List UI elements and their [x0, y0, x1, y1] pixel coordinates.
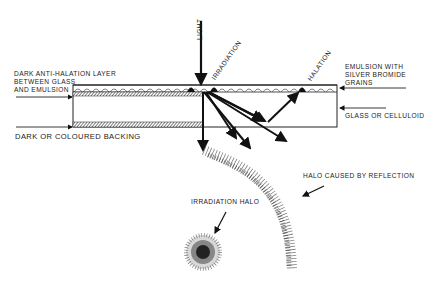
glass-label: GLASS OR CELLULOID — [345, 112, 424, 120]
anti-halation-label-1: DARK ANTI-HALATION LAYER — [14, 70, 116, 78]
scatter-rays — [203, 92, 298, 150]
backing-layer — [73, 122, 203, 127]
halo-reflection-label: HALO CAUSED BY REFLECTION — [303, 172, 414, 180]
emulsion-label-1: EMULSION WITH — [345, 63, 403, 71]
emulsion-layer — [73, 85, 337, 92]
anti-halation-label-2: BETWEEN GLASS — [14, 78, 76, 86]
backing-label: DARK OR COLOURED BACKING — [15, 133, 141, 141]
anti-halation-layer — [73, 92, 203, 96]
halo-pointers — [215, 186, 324, 233]
emulsion-label-2: SILVER BROMIDE — [345, 71, 406, 79]
emulsion-label-3: GRAINS — [345, 79, 373, 87]
light-label: LIGHT — [196, 19, 204, 40]
anti-halation-label-3: AND EMULSION — [14, 86, 69, 94]
irradiation-halo-label: IRRADIATION HALO — [191, 198, 259, 206]
halation-diagram — [0, 0, 440, 285]
irradiation-halo-blob — [186, 235, 220, 269]
